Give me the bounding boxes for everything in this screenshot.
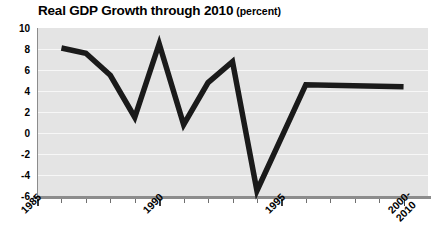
gdp-growth-chart: Real GDP Growth through 2010(percent) 10… <box>0 0 442 239</box>
data-line-series <box>0 0 442 239</box>
